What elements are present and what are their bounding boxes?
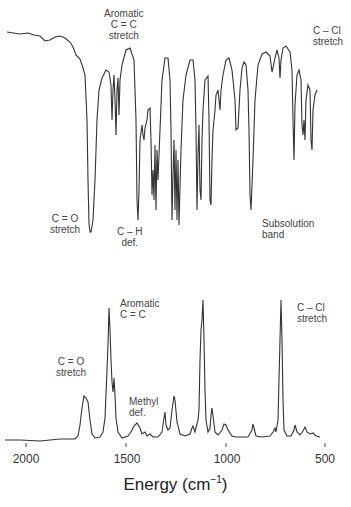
label-line: band	[262, 229, 314, 240]
label-line: stretch	[104, 30, 143, 41]
ir-label-co-stretch: C = O stretch	[50, 213, 80, 235]
label-line: Methyl	[129, 396, 158, 407]
raman-label-co-stretch: C = O stretch	[56, 356, 86, 378]
label-line: C = O	[50, 213, 80, 224]
raman-label-aromatic-cc: Aromatic C = C	[120, 298, 159, 320]
label-line: C – Cl	[313, 25, 343, 36]
label-line: Aromatic	[104, 8, 143, 19]
label-line: stretch	[297, 313, 327, 324]
label-line: stretch	[313, 36, 343, 47]
x-axis-label-text: Energy (cm	[124, 475, 211, 494]
raman-spectrum-line	[5, 300, 320, 441]
x-axis-label: Energy (cm−1)	[0, 474, 351, 495]
label-line: C – Cl	[297, 302, 327, 313]
label-line: C = C	[104, 19, 143, 30]
ir-spectrum-line	[7, 32, 317, 232]
x-axis-label-close: )	[222, 475, 228, 494]
label-line: C – H	[117, 226, 143, 237]
spectra-plot	[0, 0, 351, 507]
label-line: C = C	[120, 309, 159, 320]
tick-label-500: 500	[315, 452, 335, 466]
ir-label-aromatic-cc: Aromatic C = C stretch	[104, 8, 143, 41]
label-line: stretch	[50, 224, 80, 235]
ir-label-ch-def: C – H def.	[117, 226, 143, 248]
x-axis-ticks	[26, 443, 325, 447]
raman-label-methyl-def: Methyl def.	[129, 396, 158, 418]
ir-label-ccl-stretch: C – Cl stretch	[313, 25, 343, 47]
label-line: stretch	[56, 367, 86, 378]
tick-label-1500: 1500	[114, 452, 141, 466]
ir-label-subsolution-band: Subsolution band	[262, 218, 314, 240]
raman-label-ccl-stretch: C – Cl stretch	[297, 302, 327, 324]
label-line: C = O	[56, 356, 86, 367]
label-line: Subsolution	[262, 218, 314, 229]
label-line: def.	[129, 407, 158, 418]
label-line: Aromatic	[120, 298, 159, 309]
tick-label-2000: 2000	[13, 452, 40, 466]
x-axis-label-exponent: −1	[210, 474, 221, 485]
label-line: def.	[117, 237, 143, 248]
tick-label-1000: 1000	[214, 452, 241, 466]
